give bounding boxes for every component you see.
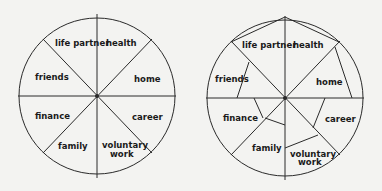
label-home: home [316, 77, 343, 87]
label-life-partner: life partner [55, 38, 110, 48]
label-life-partner: life partner [242, 40, 297, 50]
label-work: work [298, 157, 322, 167]
score-line-health [285, 17, 339, 42]
label-family: family [252, 143, 282, 153]
wheel-of-life-diagram: life partner health home career voluntar… [0, 0, 382, 191]
label-finance: finance [35, 111, 70, 121]
label-work: work [110, 149, 134, 159]
label-health: health [293, 40, 324, 50]
label-friends: friends [215, 74, 249, 84]
label-career: career [132, 112, 163, 122]
score-line-career [313, 98, 325, 128]
score-line-life-partner [231, 17, 285, 42]
score-line-voluntary-work [285, 135, 318, 148]
label-finance: finance [223, 113, 258, 123]
center-dot [96, 95, 99, 98]
center-dot [284, 97, 287, 100]
score-line-family [265, 118, 285, 125]
label-friends: friends [35, 72, 69, 82]
label-health: health [106, 38, 137, 48]
label-family: family [58, 141, 88, 151]
label-home: home [134, 74, 161, 84]
label-career: career [325, 114, 356, 124]
